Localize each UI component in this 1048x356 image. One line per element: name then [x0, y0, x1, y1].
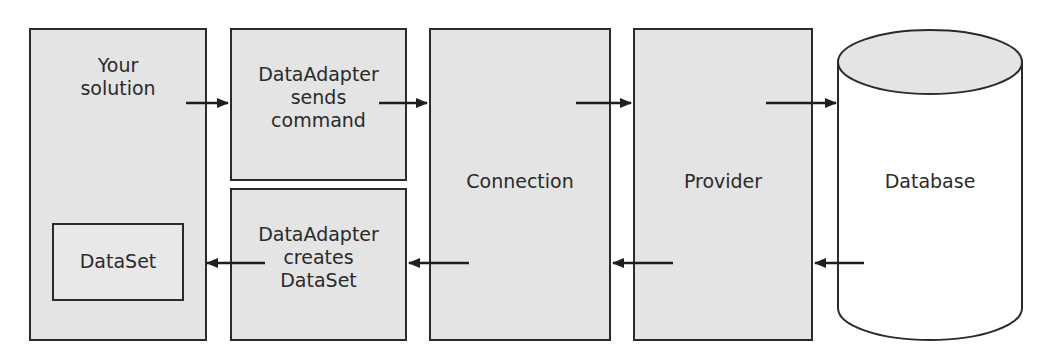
- database-label: Database: [838, 170, 1022, 193]
